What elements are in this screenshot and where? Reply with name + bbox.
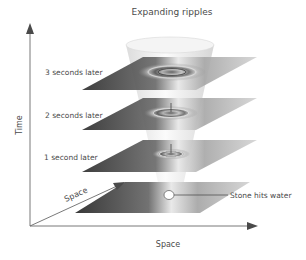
space-axis-horizontal-arrowhead [247, 222, 258, 230]
time-slice-0s: Stone hits water [75, 182, 292, 213]
time-slice-label: 1 second later [44, 153, 99, 162]
impact-point [164, 191, 174, 200]
water-plane [75, 182, 250, 213]
time-slice-label: 2 seconds later [45, 111, 103, 120]
space-axis-horizontal-label: Space [156, 240, 180, 249]
time-slice-3s: 3 seconds later [45, 57, 257, 90]
time-slice-label: 3 seconds later [45, 68, 103, 77]
time-slice-2s: 2 seconds later [45, 98, 257, 130]
event-label: Stone hits water [230, 191, 292, 200]
time-axis-arrowhead [26, 23, 34, 34]
time-axis-label: Time [15, 115, 24, 136]
diagram-title: Expanding ripples [132, 7, 213, 17]
light-cone-top [126, 37, 214, 53]
time-slice-1s: 1 second later [44, 140, 257, 172]
light-cone-diagram: Expanding ripples 3 seconds later 2 seco… [0, 0, 306, 260]
